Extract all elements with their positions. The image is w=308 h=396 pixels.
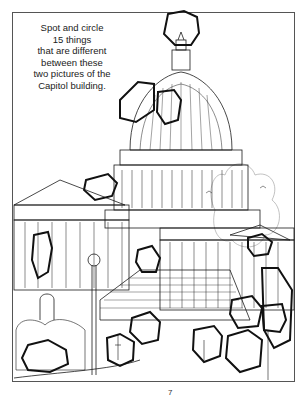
difference-circles — [22, 11, 292, 372]
capitol-drawing — [0, 0, 308, 396]
page-number: 7 — [168, 388, 172, 396]
